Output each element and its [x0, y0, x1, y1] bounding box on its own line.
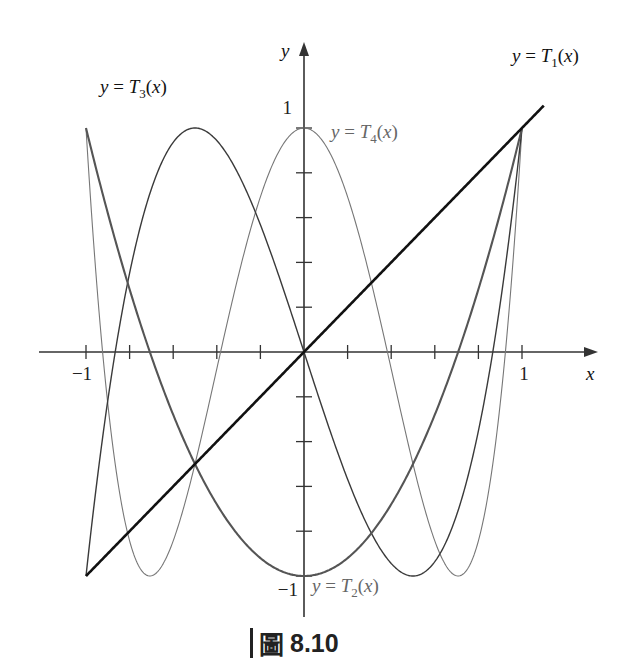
axes: −111−1xy: [39, 40, 598, 617]
caption-number: 8.10: [290, 629, 339, 658]
x-tick-label: 1: [519, 363, 529, 384]
x-tick-label: −1: [72, 363, 92, 384]
curve-label: y = T1(x): [510, 45, 579, 70]
caption-prefix: 圖: [259, 625, 284, 661]
y-axis-arrow-icon: [299, 42, 309, 56]
chebyshev-plot: −111−1xy y = T3(x)y = T1(x)y = T4(x)y = …: [0, 0, 639, 662]
curve-label: y = T2(x): [310, 575, 379, 600]
figure-caption: 圖 8.10: [250, 626, 339, 660]
y-tick-label: −1: [278, 579, 298, 600]
x-axis-arrow-icon: [584, 347, 598, 357]
curve-labels: y = T3(x)y = T1(x)y = T4(x)y = T2(x): [98, 45, 579, 600]
curves: [86, 106, 544, 576]
caption-bar: [250, 628, 253, 658]
curve-label: y = T3(x): [98, 76, 167, 101]
y-tick-label: 1: [283, 97, 293, 118]
curve-y-t1-x: [86, 106, 544, 576]
curve-label: y = T4(x): [329, 121, 398, 146]
x-axis-label: x: [585, 363, 595, 384]
y-axis-label: y: [279, 40, 290, 61]
